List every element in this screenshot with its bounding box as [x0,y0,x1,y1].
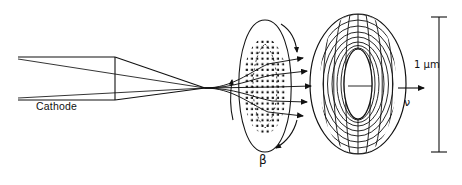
scale-bar [431,17,447,152]
figure-canvas: Cathode β ν 1 µm [0,0,462,185]
cathode-taper [115,57,205,100]
diagram-svg [0,0,462,185]
scale-bar-label: 1 µm [414,60,440,70]
nu-velocity-label: ν [404,97,410,108]
beta-label: β [259,154,267,166]
circulation-arrow-left [231,80,233,120]
specimen-torus [298,14,418,154]
cathode-label: Cathode [36,101,77,112]
